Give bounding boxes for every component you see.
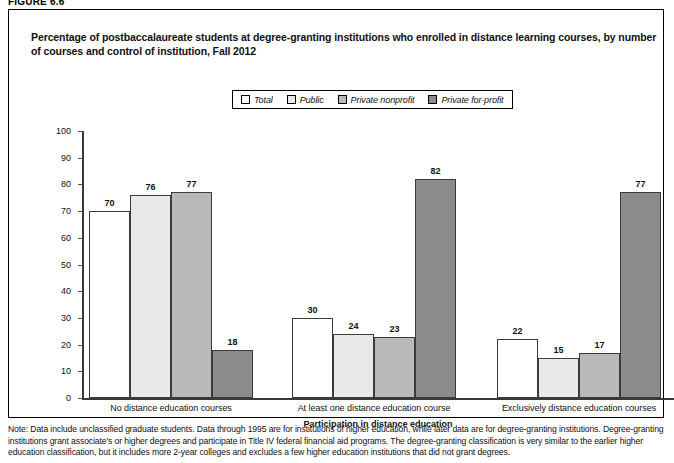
y-axis-tick-label: 40 bbox=[61, 291, 71, 292]
y-axis-tick-label: 50 bbox=[61, 265, 71, 266]
bar[interactable] bbox=[130, 195, 171, 398]
y-axis-tick: 60 bbox=[78, 238, 82, 239]
bar[interactable] bbox=[538, 358, 579, 398]
bar-slot: 15 bbox=[538, 131, 579, 398]
bar-slot: 24 bbox=[333, 131, 374, 398]
legend-item-public[interactable]: Public bbox=[287, 95, 324, 105]
bar[interactable] bbox=[620, 192, 661, 398]
figure-note: Note: Data include unclassified graduate… bbox=[8, 424, 668, 459]
y-axis-tick-label: 60 bbox=[61, 238, 71, 239]
bar-value-label: 24 bbox=[333, 321, 374, 331]
y-axis-tick: 20 bbox=[78, 345, 82, 346]
bar-value-label: 82 bbox=[415, 166, 456, 176]
y-axis-tick: 80 bbox=[78, 184, 82, 185]
chart-legend: TotalPublicPrivate nonprofitPrivate for-… bbox=[232, 90, 513, 109]
y-axis-tick-label: 30 bbox=[61, 318, 71, 319]
legend-item-label: Private for-profit bbox=[441, 95, 503, 105]
bar-value-label: 70 bbox=[89, 198, 130, 208]
bar[interactable] bbox=[374, 337, 415, 398]
y-axis-tick-label: 10 bbox=[61, 371, 71, 372]
bar-slot: 22 bbox=[497, 131, 538, 398]
bar-slot: 77 bbox=[620, 131, 661, 398]
bar-slot: 17 bbox=[579, 131, 620, 398]
x-axis-category-label: Exclusively distance education courses bbox=[469, 403, 674, 413]
bar-group: 22151777 bbox=[497, 131, 661, 398]
bar-slot: 30 bbox=[292, 131, 333, 398]
bar-slot: 77 bbox=[171, 131, 212, 398]
bar-group: 30242382 bbox=[292, 131, 456, 398]
y-axis-tick-label: 100 bbox=[56, 131, 71, 132]
plot-area: Percent Participation in distance educat… bbox=[82, 131, 674, 398]
bar-value-label: 30 bbox=[292, 305, 333, 315]
y-axis-tick: 30 bbox=[78, 318, 82, 319]
y-axis-tick-label: 0 bbox=[66, 398, 71, 399]
bar-value-label: 23 bbox=[374, 324, 415, 334]
bar-value-label: 15 bbox=[538, 345, 579, 355]
bar-value-label: 76 bbox=[130, 182, 171, 192]
legend-item-private-nonprofit[interactable]: Private nonprofit bbox=[338, 95, 415, 105]
y-axis-tick: 100 bbox=[78, 131, 82, 132]
y-axis-tick-label: 70 bbox=[61, 211, 71, 212]
bar-slot: 18 bbox=[212, 131, 253, 398]
legend-item-label: Total bbox=[254, 95, 273, 105]
bar-value-label: 17 bbox=[579, 340, 620, 350]
bar-value-label: 77 bbox=[171, 179, 212, 189]
y-axis-tick-label: 80 bbox=[61, 184, 71, 185]
y-axis-tick-label: 20 bbox=[61, 345, 71, 346]
y-axis-tick-label: 90 bbox=[61, 158, 71, 159]
bar-slot: 23 bbox=[374, 131, 415, 398]
bar-group: 70767718 bbox=[89, 131, 253, 398]
legend-item-total[interactable]: Total bbox=[241, 95, 273, 105]
legend-swatch-icon bbox=[338, 95, 347, 104]
bar-value-label: 22 bbox=[497, 326, 538, 336]
bar-slot: 82 bbox=[415, 131, 456, 398]
bar-slot: 70 bbox=[89, 131, 130, 398]
bar[interactable] bbox=[292, 318, 333, 398]
y-axis-tick: 90 bbox=[78, 158, 82, 159]
bar[interactable] bbox=[415, 179, 456, 398]
x-axis-category-label: At least one distance education course bbox=[264, 403, 484, 413]
x-axis-category-label: No distance education courses bbox=[61, 403, 281, 413]
legend-item-private-for-profit[interactable]: Private for-profit bbox=[428, 95, 503, 105]
y-axis-tick: 10 bbox=[78, 371, 82, 372]
bar[interactable] bbox=[579, 353, 620, 398]
legend-swatch-icon bbox=[287, 95, 296, 104]
bar[interactable] bbox=[333, 334, 374, 398]
figure-note-text: Note: Data include unclassified graduate… bbox=[8, 424, 668, 459]
bar[interactable] bbox=[171, 192, 212, 398]
bar-value-label: 18 bbox=[212, 337, 253, 347]
legend-swatch-icon bbox=[241, 95, 250, 104]
chart-title: Percentage of postbaccalaureate students… bbox=[31, 30, 659, 58]
figure-label: FIGURE 6.6 bbox=[8, 0, 64, 7]
bar-slot: 76 bbox=[130, 131, 171, 398]
legend-swatch-icon bbox=[428, 95, 437, 104]
y-axis-tick: 0 bbox=[78, 398, 82, 399]
x-axis-line bbox=[82, 398, 674, 400]
y-axis-tick: 40 bbox=[78, 291, 82, 292]
legend-item-label: Private nonprofit bbox=[351, 95, 415, 105]
bar[interactable] bbox=[89, 211, 130, 398]
figure-panel: Percentage of postbaccalaureate students… bbox=[8, 9, 664, 418]
bar-value-label: 77 bbox=[620, 179, 661, 189]
bar[interactable] bbox=[497, 339, 538, 398]
legend-item-label: Public bbox=[300, 95, 324, 105]
y-axis-line bbox=[82, 131, 84, 398]
bar[interactable] bbox=[212, 350, 253, 398]
y-axis-tick: 50 bbox=[78, 265, 82, 266]
y-axis-tick: 70 bbox=[78, 211, 82, 212]
